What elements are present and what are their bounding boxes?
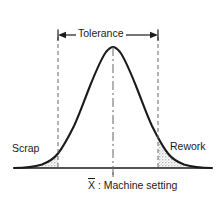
overbar	[88, 178, 95, 179]
x-bar-letter: X	[88, 179, 95, 191]
x-bar-symbol: X	[88, 180, 95, 191]
caption-text: : Machine setting	[95, 179, 177, 191]
tolerance-arrow-left-icon	[58, 32, 66, 38]
scrap-label: Scrap	[12, 143, 39, 154]
machine-setting-caption: X : Machine setting	[88, 180, 177, 191]
tolerance-arrow-right-icon	[150, 32, 158, 38]
process-capability-diagram: Tolerance Scrap Rework X : Machine setti…	[0, 0, 224, 205]
rework-label: Rework	[170, 141, 206, 152]
tolerance-label: Tolerance	[76, 28, 126, 39]
